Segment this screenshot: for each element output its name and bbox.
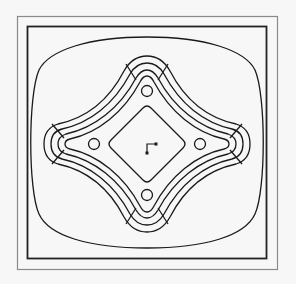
lobe-tick-left-top: [52, 124, 64, 138]
lobe-tick-right-top: [230, 124, 242, 138]
hole-left: [89, 139, 100, 150]
hole-right: [195, 139, 206, 150]
lobe-tick-right-bottom: [230, 150, 242, 164]
hole-bottom: [142, 190, 153, 201]
inner-frame: [28, 27, 267, 259]
origin-marker: [146, 143, 158, 155]
hole-top: [142, 86, 153, 97]
lobe-tick-left-bottom: [52, 150, 64, 164]
technical-drawing: [0, 0, 296, 284]
